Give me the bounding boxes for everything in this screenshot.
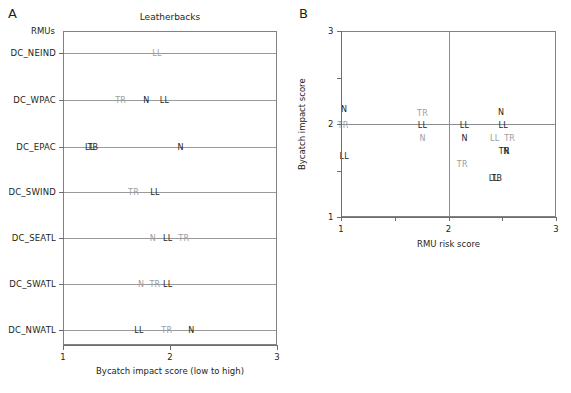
- panel-b-point-8-tr: TR: [457, 160, 468, 169]
- panel-a-point-dc_wpac-ll: LL: [160, 96, 170, 105]
- panel-a-x-axis-title: Bycatch impact score (low to high): [63, 366, 277, 376]
- figure-container: A Leatherbacks DC_NEINDDC_WPACDC_EPACDC_…: [0, 0, 571, 393]
- panel-a-xticklabel-2: 2: [167, 352, 172, 362]
- panel-a-ylabel-dc_epac: DC_EPAC: [16, 142, 56, 152]
- panel-b-y-axis-title: Bycatch impact score: [297, 78, 307, 170]
- panel-a-point-dc_swatl-tr: TR: [149, 280, 160, 289]
- panel-a-rowline-dc_swind: [64, 192, 276, 193]
- panel-b-point-11-ll: LL: [490, 134, 500, 143]
- panel-a-point-dc_wpac-n: N: [143, 96, 149, 105]
- panel-a-ytick-dc_nwatl: [59, 330, 64, 331]
- panel-a-point-dc_swind-ll: LL: [150, 188, 160, 197]
- panel-b-xticklabel-1: 1: [338, 224, 343, 234]
- panel-b-xtick-2: [449, 217, 450, 221]
- panel-a-ylabel-dc_seatl: DC_SEATL: [12, 233, 56, 243]
- panel-a-ytick-dc_swatl: [59, 284, 64, 285]
- panel-b-letter: B: [299, 6, 308, 21]
- panel-a-plot-area: DC_NEINDDC_WPACDC_EPACDC_SWINDDC_SEATLDC…: [63, 31, 277, 345]
- panel-b-point-7-n: N: [461, 134, 467, 143]
- panel-a-point-dc_swind-tr: TR: [128, 188, 139, 197]
- panel-b-point-4-ll: LL: [418, 121, 428, 130]
- panel-b-xticklabel-3: 3: [553, 224, 558, 234]
- panel-b-ytick-1.5: [337, 171, 341, 172]
- panel-a-xtick-2: [170, 345, 171, 350]
- panel-a-point-dc_swatl-ll: LL: [163, 280, 173, 289]
- panel-a-rowline-dc_wpac: [64, 100, 276, 101]
- panel-a-ylabel-dc_swind: DC_SWIND: [8, 187, 56, 197]
- panel-a-point-dc_nwatl-n: N: [188, 326, 194, 335]
- panel-a-ylabel-dc_wpac: DC_WPAC: [13, 95, 56, 105]
- panel-a-point-dc_neind-ll: LL: [152, 49, 162, 58]
- panel-b-point-3-tr: TR: [417, 108, 428, 117]
- panel-a-point-dc_epac-n: N: [177, 143, 183, 152]
- panel-a-ytick-dc_seatl: [59, 238, 64, 239]
- panel-a-ylabel-dc_neind: DC_NEIND: [11, 48, 56, 58]
- panel-a-letter: A: [8, 6, 17, 21]
- panel-a-ytick-dc_swind: [59, 192, 64, 193]
- panel-a-point-dc_epac-tb: TB: [87, 143, 98, 152]
- panel-a-point-dc_nwatl-tr: TR: [161, 326, 172, 335]
- panel-a-xtick-1: [63, 345, 64, 350]
- panel-a-ytick-dc_neind: [59, 53, 64, 54]
- panel-b-point-5-n: N: [419, 134, 425, 143]
- panel-b-point-1-tr: TR: [338, 121, 349, 130]
- panel-a-ytick-dc_epac: [59, 147, 64, 148]
- panel-a-ylabel-dc_nwatl: DC_NWATL: [8, 325, 56, 335]
- panel-b-ytick-3: [337, 31, 341, 32]
- panel-b-xtick-3: [556, 217, 557, 221]
- panel-b-xticklabel-2: 2: [446, 224, 451, 234]
- panel-b-quadrant-hline: [342, 124, 555, 125]
- panel-b-xtick-1: [341, 217, 342, 221]
- panel-a-xtick-3: [277, 345, 278, 350]
- panel-a-point-dc_nwatl-ll: LL: [134, 326, 144, 335]
- panel-b-plot-area: NTRLLTRLLNLLNTRNLLLLTRTRNLLTB: [341, 31, 556, 217]
- panel-b-point-6-ll: LL: [460, 121, 470, 130]
- panel-b-x-axis-title: RMU risk score: [341, 239, 556, 249]
- panel-a-point-dc_swatl-n: N: [138, 280, 144, 289]
- panel-b-xtick-2.5: [502, 217, 503, 221]
- panel-b-point-14-n: N: [503, 147, 509, 156]
- panel-b-point-12-tr: TR: [504, 134, 515, 143]
- panel-b-y-axis: [341, 31, 342, 217]
- panel-b-yticklabel-3: 3: [328, 26, 333, 36]
- panel-b-ytick-2: [337, 124, 341, 125]
- panel-a-xticklabel-1: 1: [60, 352, 65, 362]
- panel-a-point-dc_seatl-tr: TR: [178, 234, 189, 243]
- panel-a-point-dc_wpac-tr: TR: [115, 96, 126, 105]
- panel-b-point-10-ll: LL: [498, 121, 508, 130]
- panel-a-xticklabel-3: 3: [274, 352, 279, 362]
- panel-a-point-dc_seatl-ll: LL: [163, 234, 173, 243]
- panel-a-title: Leatherbacks: [63, 12, 277, 22]
- panel-a-ytick-dc_wpac: [59, 100, 64, 101]
- panel-a-ylabel-dc_swatl: DC_SWATL: [9, 279, 56, 289]
- panel-b-point-16-tb: TB: [491, 174, 502, 183]
- panel-b-xtick-1.5: [395, 217, 396, 221]
- panel-b-point-9-n: N: [498, 107, 504, 116]
- panel-a-rowline-dc_neind: [64, 53, 276, 54]
- panel-b-ytick-2.5: [337, 78, 341, 79]
- panel-a-rmus-label: RMUs: [31, 26, 55, 36]
- panel-b-yticklabel-1: 1: [328, 212, 333, 222]
- panel-a-point-dc_seatl-n: N: [150, 234, 156, 243]
- panel-b-yticklabel-2: 2: [328, 119, 333, 129]
